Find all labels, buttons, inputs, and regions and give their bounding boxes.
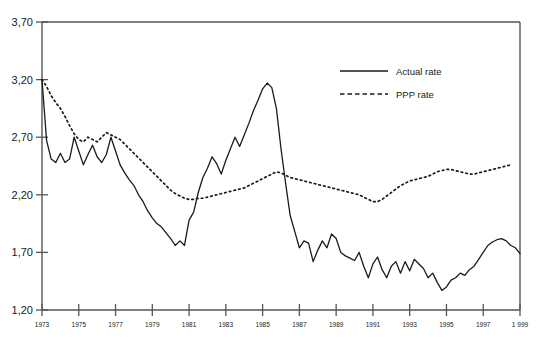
x-tick-label: 1995 <box>439 321 454 328</box>
x-tick-label: 1981 <box>182 321 197 328</box>
x-tick-label: 1975 <box>72 321 87 328</box>
x-tick-label: 1997 <box>476 321 491 328</box>
x-tick-label: 1989 <box>329 321 344 328</box>
x-tick-label: 1991 <box>366 321 381 328</box>
y-tick-label: 1,20 <box>12 304 33 316</box>
legend-label-ppp-rate: PPP rate <box>396 89 434 100</box>
y-tick-label: 3,20 <box>12 74 33 86</box>
y-tick-label: 3,70 <box>12 16 33 28</box>
chart-container: 1,201,702,202,703,203,70 197319751977197… <box>0 0 539 341</box>
y-tick-label: 2,70 <box>12 131 33 143</box>
x-tick-label: 1977 <box>108 321 123 328</box>
exchange-rate-line-chart: 1,201,702,202,703,203,70 197319751977197… <box>0 0 539 341</box>
legend-label-actual-rate: Actual rate <box>396 66 441 77</box>
x-tick-label: 1979 <box>145 321 160 328</box>
x-tick-label: 1 999 <box>512 321 529 328</box>
y-tick-label: 1,70 <box>12 246 33 258</box>
x-tick-label: 1983 <box>219 321 234 328</box>
x-tick-label: 1985 <box>255 321 270 328</box>
x-tick-label: 1973 <box>35 321 50 328</box>
x-tick-label: 1993 <box>402 321 417 328</box>
y-tick-label: 2,20 <box>12 189 33 201</box>
x-tick-label: 1987 <box>292 321 307 328</box>
